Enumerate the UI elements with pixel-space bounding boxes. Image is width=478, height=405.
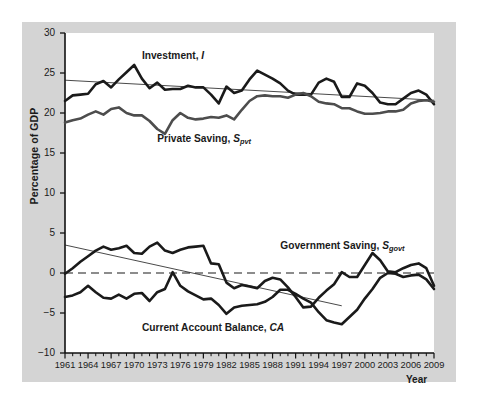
y-tick-label: 0 bbox=[29, 267, 55, 278]
series-line-3 bbox=[65, 272, 434, 324]
series-annotation: Government Saving, Sgovt bbox=[280, 240, 404, 253]
y-tick-label: −5 bbox=[29, 307, 55, 318]
y-tick-label: 25 bbox=[29, 67, 55, 78]
y-tick-label: −10 bbox=[29, 347, 55, 358]
y-tick-label: 30 bbox=[29, 27, 55, 38]
x-tick-label: 2009 bbox=[417, 360, 451, 370]
chart-svg bbox=[0, 0, 478, 405]
series-line-0 bbox=[65, 65, 434, 104]
data-series-group bbox=[65, 65, 434, 324]
y-tick-label: 20 bbox=[29, 107, 55, 118]
series-annotation: Current Account Balance, CA bbox=[142, 322, 284, 333]
series-annotation: Investment, I bbox=[142, 50, 204, 61]
y-tick-label: 15 bbox=[29, 147, 55, 158]
x-axis-title: Year bbox=[406, 374, 427, 385]
figure-root: Percentage of GDP 302520151050−5−10 1961… bbox=[0, 0, 478, 405]
y-tick-label: 5 bbox=[29, 227, 55, 238]
series-annotation: Private Saving, Spvt bbox=[157, 133, 251, 146]
y-tick-label: 10 bbox=[29, 187, 55, 198]
